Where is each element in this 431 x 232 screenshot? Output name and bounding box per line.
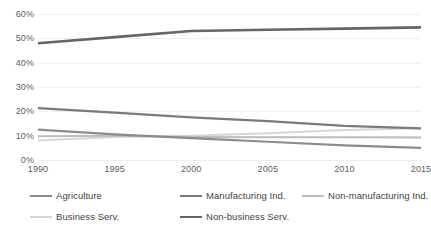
chart-legend: AgricultureManufacturing Ind.Non-manufac… <box>30 186 422 228</box>
legend-swatch-icon <box>302 195 324 197</box>
legend-row: AgricultureManufacturing Ind.Non-manufac… <box>30 186 422 206</box>
legend-item[interactable]: Non-business Serv. <box>180 207 289 227</box>
x-tick-label: 1995 <box>104 163 124 175</box>
legend-label: Business Serv. <box>56 211 119 223</box>
y-tick-label: 20% <box>0 106 34 116</box>
plot-area <box>38 14 421 160</box>
y-tick-label: 50% <box>0 33 34 43</box>
x-tick-label: 2010 <box>334 163 354 175</box>
series-line <box>38 27 421 43</box>
y-axis: 0%10%20%30%40%50%60% <box>0 0 34 174</box>
y-tick-label: 40% <box>0 58 34 68</box>
legend-swatch-icon <box>180 195 202 197</box>
legend-swatch-icon <box>30 195 52 197</box>
legend-label: Non-business Serv. <box>206 211 289 223</box>
y-tick-label: 10% <box>0 131 34 141</box>
x-tick-label: 1990 <box>28 163 48 175</box>
legend-row: Business Serv.Non-business Serv. <box>30 207 422 227</box>
series-line <box>38 108 421 128</box>
legend-item[interactable]: Non-manufacturing Ind. <box>302 186 428 206</box>
legend-label: Agriculture <box>56 190 102 202</box>
x-axis: 199019952000200520102015 <box>38 163 421 179</box>
legend-item[interactable]: Business Serv. <box>30 207 119 227</box>
y-tick-label: 60% <box>0 9 34 19</box>
legend-label: Non-manufacturing Ind. <box>328 190 428 202</box>
legend-item[interactable]: Agriculture <box>30 186 102 206</box>
legend-swatch-icon <box>30 216 52 218</box>
x-tick-label: 2000 <box>181 163 201 175</box>
legend-item[interactable]: Manufacturing Ind. <box>180 186 286 206</box>
series-line <box>38 128 421 140</box>
gridline-0 <box>38 160 421 161</box>
series-lines <box>38 14 421 160</box>
x-tick-label: 2015 <box>411 163 431 175</box>
legend-swatch-icon <box>180 216 202 218</box>
x-tick-label: 2005 <box>258 163 278 175</box>
legend-label: Manufacturing Ind. <box>206 190 286 202</box>
y-tick-label: 30% <box>0 82 34 92</box>
